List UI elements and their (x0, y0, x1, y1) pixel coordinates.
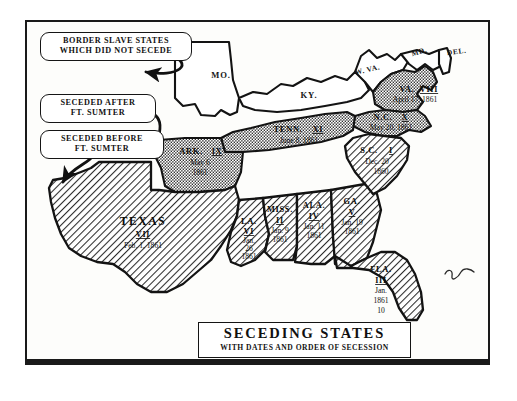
state-date-florida-2: 1861 (373, 296, 388, 305)
state-label-florida: FLA. (370, 265, 392, 274)
state-label-mississippi: MISS. (267, 205, 293, 214)
legend-after-line2: FT. SUMTER (46, 108, 150, 119)
state-date-south-carolina-1: Dec. 20 (365, 157, 389, 166)
state-label-alabama: ALA. (303, 201, 326, 210)
state-date-tennessee: June 8, 1861 (280, 136, 319, 145)
state-date-virginia: April 17, 1861 (393, 95, 438, 104)
state-date-mississippi-1: Jan. 9 (271, 226, 289, 235)
state-date-texas: Feb. 1, 1861 (124, 241, 162, 250)
state-label-north-carolina: N.C. (373, 113, 392, 122)
map-canvas: MO. KY. W. VA. MD. DEL. VA. VIII April 1… (25, 20, 490, 365)
map-title-block: SECEDING STATES WITH DATES AND ORDER OF … (198, 322, 411, 358)
state-order-louisiana: VI (244, 227, 255, 236)
state-date-florida-1: Jan. (375, 286, 387, 295)
state-date-alabama-1: Jan. 11 (303, 222, 324, 231)
state-label-south-carolina: S.C. (360, 146, 378, 155)
state-order-north-carolina: X (402, 113, 409, 122)
state-order-georgia: V (349, 208, 356, 217)
state-label-kentucky: KY. (301, 90, 318, 100)
state-label-delaware: DEL. (446, 46, 467, 58)
map-title-main: SECEDING STATES (199, 326, 410, 341)
state-order-florida: III (375, 276, 387, 285)
state-order-texas: VII (136, 230, 150, 239)
state-order-tennessee: XI (313, 125, 324, 134)
legend-callout-seceded-before-sumter[interactable]: SECEDED BEFORE FT. SUMTER (40, 130, 164, 159)
state-date-south-carolina-2: 1860 (373, 167, 388, 176)
legend-after-line1: SECEDED AFTER (60, 98, 135, 107)
legend-before-line2: FT. SUMTER (46, 144, 158, 155)
legend-border-slave-line2: WHICH DID NOT SECEDE (46, 46, 186, 57)
state-label-louisiana: LA. (241, 217, 257, 226)
legend-border-slave-line1: BORDER SLAVE STATES (63, 36, 169, 45)
state-label-georgia: GA. (344, 197, 361, 206)
seceding-states-map-figure: MO. KY. W. VA. MD. DEL. VA. VIII April 1… (0, 0, 517, 401)
state-date-north-carolina: May 20, 1861 (370, 123, 413, 132)
state-label-missouri: MO. (211, 70, 231, 80)
state-date-arkansas-2: 1861 (192, 168, 207, 177)
state-order-arkansas: IX (212, 147, 223, 156)
state-order-virginia: VIII (420, 85, 438, 94)
state-order-mississippi: II (276, 216, 284, 225)
state-label-virginia: VA. (399, 85, 414, 94)
state-label-tennessee: TENN. (274, 125, 303, 134)
state-date-mississippi-2: 1861 (272, 235, 287, 244)
legend-callout-border-slave-states[interactable]: BORDER SLAVE STATES WHICH DID NOT SECEDE (40, 32, 192, 61)
legend-callout-seceded-after-sumter[interactable]: SECEDED AFTER FT. SUMTER (40, 94, 156, 123)
state-date-louisiana-3: 1861 (241, 252, 256, 261)
state-order-south-carolina: I (389, 146, 393, 155)
state-date-alabama-2: 1861 (306, 231, 321, 240)
state-date-florida-3: 10 (377, 306, 385, 315)
state-label-arkansas: ARK. (179, 147, 203, 156)
state-label-texas: TEXAS (120, 215, 166, 227)
state-order-alabama: IV (309, 212, 320, 221)
state-date-georgia-2: 1861 (344, 227, 359, 236)
map-title-subtitle: WITH DATES AND ORDER OF SECESSION (199, 343, 410, 352)
state-date-georgia-1: Jan. 19 (341, 218, 363, 227)
legend-before-line1: SECEDED BEFORE (61, 134, 143, 143)
artist-squiggle-mark (445, 269, 474, 279)
state-date-arkansas-1: May 6 (190, 158, 210, 167)
